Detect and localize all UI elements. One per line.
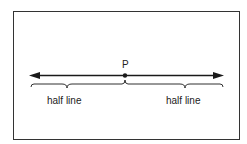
- left-half-line-label: half line: [47, 95, 82, 106]
- half-line-braces: [31, 80, 223, 88]
- half-line-diagram: P half line half line: [0, 0, 247, 144]
- right-half-line-label: half line: [166, 95, 201, 106]
- left-arrowhead-icon: [29, 72, 40, 79]
- point-p-label: P: [122, 59, 129, 70]
- point-p: [123, 73, 127, 77]
- right-arrowhead-icon: [213, 72, 224, 79]
